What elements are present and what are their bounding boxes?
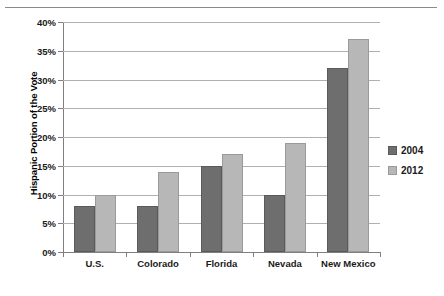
y-axis-tick-label: 30% — [6, 74, 56, 85]
x-axis-category-label: Colorado — [126, 258, 189, 270]
y-axis-tick — [58, 166, 63, 167]
bar-2004-florida — [201, 166, 222, 252]
y-axis-tick-label: 40% — [6, 17, 56, 28]
gridline — [63, 51, 380, 52]
y-axis-tick — [58, 108, 63, 109]
x-axis-tick — [63, 252, 64, 257]
bar-2004-colorado — [137, 206, 158, 252]
bar-2004-u-s- — [74, 206, 95, 252]
bar-2012-colorado — [158, 172, 179, 253]
legend-item-label: 2004 — [401, 145, 423, 156]
legend-swatch-icon — [388, 146, 397, 155]
bar-2012-u-s- — [95, 195, 116, 253]
x-axis-tick — [317, 252, 318, 257]
legend-item-2012[interactable]: 2012 — [388, 160, 442, 180]
legend-item-label: 2012 — [401, 165, 423, 176]
plot-area — [63, 22, 380, 252]
bar-2012-florida — [222, 154, 243, 252]
x-axis-tick — [380, 252, 381, 257]
y-axis-tick-label: 0% — [6, 247, 56, 258]
x-axis-line — [63, 252, 380, 253]
y-axis-tick-label: 10% — [6, 189, 56, 200]
y-axis-tick-label: 5% — [6, 218, 56, 229]
x-axis-category-label: Florida — [190, 258, 253, 270]
legend-swatch-icon — [388, 166, 397, 175]
bar-2012-nevada — [285, 143, 306, 252]
y-axis-tick-label: 15% — [6, 160, 56, 171]
chart-legend: 20042012 — [388, 140, 442, 180]
y-axis-tick-label: 35% — [6, 45, 56, 56]
y-axis-tick — [58, 51, 63, 52]
y-axis-tick-label: 25% — [6, 103, 56, 114]
y-axis-tick — [58, 137, 63, 138]
x-axis-tick — [126, 252, 127, 257]
bar-2004-nevada — [264, 195, 285, 253]
legend-item-2004[interactable]: 2004 — [388, 140, 442, 160]
hispanic-vote-bar-chart: Hispanic Portion of the Vote 40%35%30%25… — [0, 0, 444, 296]
x-axis-category-label: U.S. — [63, 258, 126, 270]
bar-2012-new-mexico — [348, 39, 369, 252]
x-axis-tick — [253, 252, 254, 257]
gridline — [63, 22, 380, 23]
y-axis-tick — [58, 195, 63, 196]
y-axis-tick-label: 20% — [6, 132, 56, 143]
x-axis-category-label: New Mexico — [317, 258, 380, 270]
x-axis-tick — [190, 252, 191, 257]
y-axis-tick — [58, 80, 63, 81]
x-axis-category-label: Nevada — [253, 258, 316, 270]
bar-2004-new-mexico — [327, 68, 348, 252]
y-axis-tick-labels: 40%35%30%25%20%15%10%5%0% — [0, 0, 56, 296]
y-axis-tick — [58, 223, 63, 224]
y-axis-tick — [58, 22, 63, 23]
